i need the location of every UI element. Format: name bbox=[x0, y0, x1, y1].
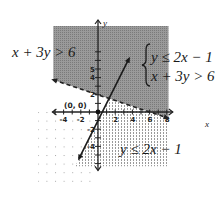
arrowhead-icon bbox=[51, 79, 58, 84]
origin-label: (0, 0) bbox=[64, 101, 87, 110]
x-tick-label: -4 bbox=[60, 116, 68, 124]
x-tick-label: 4 bbox=[130, 116, 135, 124]
y-tick-label: 2 bbox=[90, 91, 95, 99]
x-tick-label: 8 bbox=[165, 116, 170, 124]
inequality-graph: -4-22468 542-2-4 (0, 0) y x x + 3y > 6 y… bbox=[0, 0, 220, 198]
graph-canvas: -4-22468 542-2-4 (0, 0) y x x + 3y > 6 y… bbox=[0, 0, 220, 198]
x-tick-label: 2 bbox=[113, 116, 118, 124]
y-tick-label: 4 bbox=[90, 74, 95, 82]
x-tick-label: -2 bbox=[77, 116, 85, 124]
inequality-label-left: x + 3y > 6 bbox=[11, 44, 76, 60]
inequality-label-bottom: y ≤ 2x − 1 bbox=[118, 141, 182, 157]
origin-point bbox=[96, 110, 101, 115]
y-ticks: 542-2-4 bbox=[87, 52, 101, 164]
x-tick-label: 6 bbox=[148, 116, 153, 124]
system-line-2: x + 3y > 6 bbox=[150, 68, 215, 84]
y-tick-label: 5 bbox=[90, 66, 95, 74]
y-axis-label: y bbox=[102, 18, 107, 28]
y-tick-label: -4 bbox=[87, 143, 95, 151]
x-axis-label: x bbox=[204, 119, 209, 129]
system-line-1: y ≤ 2x − 1 bbox=[149, 49, 213, 65]
